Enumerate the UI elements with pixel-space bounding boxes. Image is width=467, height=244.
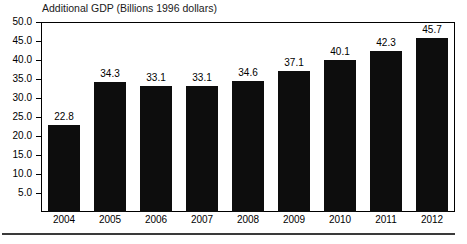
bar [186, 86, 218, 212]
bar-value-label: 34.3 [87, 68, 133, 80]
y-axis-tick-label: 30.0 [13, 92, 32, 104]
x-axis: 200420052006200720082009201020112012 [41, 212, 455, 230]
bar-value-label: 37.1 [271, 57, 317, 69]
bar [48, 125, 80, 212]
bar-group: 34.3 [94, 22, 126, 212]
bar [416, 38, 448, 212]
bar-group: 40.1 [324, 22, 356, 212]
bar-group: 33.1 [140, 22, 172, 212]
bar [140, 86, 172, 212]
bar-group: 42.3 [370, 22, 402, 212]
bar-chart-figure: Additional GDP (Billions 1996 dollars) 5… [0, 0, 467, 244]
bar-group: 22.8 [48, 22, 80, 212]
x-axis-tick-label: 2012 [409, 214, 455, 226]
x-axis-tick-label: 2009 [271, 214, 317, 226]
bar [94, 82, 126, 212]
bar-value-label: 42.3 [363, 37, 409, 49]
x-axis-tick-label: 2004 [41, 214, 87, 226]
bar-group: 45.7 [416, 22, 448, 212]
bar-value-label: 40.1 [317, 46, 363, 58]
y-axis: 50.045.040.035.030.025.020.015.010.05.0 [0, 22, 41, 212]
bar-group: 37.1 [278, 22, 310, 212]
y-axis-tick-label: 40.0 [13, 54, 32, 66]
y-axis-tick-label: 20.0 [13, 130, 32, 142]
y-axis-tick-label: 5.0 [18, 187, 32, 199]
bar [324, 60, 356, 212]
bar-group: 34.6 [232, 22, 264, 212]
y-axis-tick-label: 50.0 [13, 16, 32, 28]
y-axis-tick-label: 10.0 [13, 168, 32, 180]
bar-value-label: 22.8 [41, 111, 87, 123]
x-axis-tick-label: 2010 [317, 214, 363, 226]
chart-title: Additional GDP (Billions 1996 dollars) [42, 2, 217, 14]
bar-value-label: 33.1 [179, 72, 225, 84]
y-axis-tick-label: 35.0 [13, 73, 32, 85]
x-axis-tick-label: 2006 [133, 214, 179, 226]
x-axis-tick-label: 2011 [363, 214, 409, 226]
y-axis-tick-label: 25.0 [13, 111, 32, 123]
bar-value-label: 45.7 [409, 24, 455, 36]
bar-value-label: 33.1 [133, 72, 179, 84]
footer-divider [2, 233, 455, 235]
bar-value-label: 34.6 [225, 67, 271, 79]
x-axis-tick-label: 2007 [179, 214, 225, 226]
bar [232, 81, 264, 212]
bar [370, 51, 402, 212]
bar-group: 33.1 [186, 22, 218, 212]
bars-layer: 22.834.333.133.134.637.140.142.345.7 [41, 22, 455, 212]
bar [278, 71, 310, 212]
x-axis-tick-label: 2008 [225, 214, 271, 226]
x-axis-tick-label: 2005 [87, 214, 133, 226]
y-axis-tick-label: 45.0 [13, 35, 32, 47]
y-axis-tick-label: 15.0 [13, 149, 32, 161]
